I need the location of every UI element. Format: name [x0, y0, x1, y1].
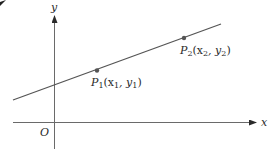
point-p1: [95, 68, 99, 72]
diagram-canvas: y x O P1(x1, y1) P2(x2, y2): [0, 0, 270, 149]
coordinate-diagram: y x O P1(x1, y1) P2(x2, y2): [0, 0, 270, 149]
point-p2-label: P2(x2, y2): [179, 44, 231, 58]
corner-artifact: [0, 0, 6, 6]
y-axis-label: y: [50, 1, 58, 14]
point-p2: [182, 36, 186, 40]
x-axis-label: x: [261, 116, 268, 129]
origin-label: O: [40, 126, 49, 139]
point-p1-label: P1(x1, y1): [90, 76, 142, 90]
